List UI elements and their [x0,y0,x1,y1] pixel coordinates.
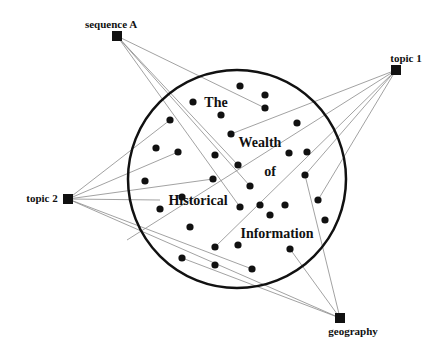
data-dot [209,175,216,182]
edge-line [68,152,178,199]
edge-line [117,36,265,108]
data-dot [211,261,218,268]
data-dot [285,149,292,156]
data-dot [141,177,148,184]
data-dot [236,203,243,210]
edge-line [117,36,250,186]
edge-line [290,249,340,318]
data-dot [186,223,193,230]
node-label-geography: geography [328,325,378,337]
edge-line [117,36,240,207]
data-dot [286,245,293,252]
node-square-topic1 [391,65,401,75]
node-label-topic1: topic 1 [390,52,421,64]
data-dot [189,98,196,105]
data-dot [321,216,328,223]
data-dot [261,91,268,98]
data-dot [217,111,224,118]
node-square-sequenceA [112,31,122,41]
data-dot [166,116,173,123]
diagram-canvas [0,0,447,354]
data-dot [246,182,253,189]
data-dot [266,211,273,218]
edge-line [68,199,340,318]
node-label-sequenceA: sequence A [85,18,137,30]
information-circle [128,70,346,288]
data-dot [234,161,241,168]
node-label-topic2: topic 2 [26,192,57,204]
node-square-topic2 [63,194,73,204]
circle-title-word: The [204,95,227,111]
edge-line [182,258,340,318]
data-dot [248,265,255,272]
data-dot [301,171,308,178]
edge-line [68,199,160,200]
circle-title-word: Wealth [239,135,282,151]
data-dot [256,201,263,208]
edge-line [305,70,396,175]
data-dot [156,205,163,212]
data-dot [211,243,218,250]
circle-title-word: of [264,164,276,180]
dots-layer [141,82,328,272]
data-dot [303,148,310,155]
data-dot [236,82,243,89]
data-dot [293,119,300,126]
nodes-layer [63,31,401,323]
node-square-geography [335,313,345,323]
data-dot [174,148,181,155]
data-dot [261,104,268,111]
data-dot [281,201,288,208]
data-dot [227,130,234,137]
data-dot [211,151,218,158]
data-dot [152,144,159,151]
circle-title-word: Information [240,226,313,242]
data-dot [314,196,321,203]
data-dot [178,254,185,261]
circle-title-word: Historical [168,193,227,209]
data-dot [234,241,241,248]
